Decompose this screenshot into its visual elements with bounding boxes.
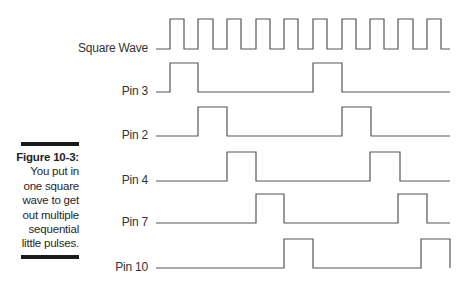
waveforms bbox=[0, 0, 476, 285]
waveform-square-wave bbox=[156, 19, 450, 49]
waveform-pin-4 bbox=[156, 152, 450, 181]
waveform-pin-3 bbox=[156, 63, 450, 92]
waveform-pin-10 bbox=[156, 239, 450, 268]
waveform-pin-7 bbox=[156, 194, 450, 223]
waveform-pin-2 bbox=[156, 107, 450, 136]
